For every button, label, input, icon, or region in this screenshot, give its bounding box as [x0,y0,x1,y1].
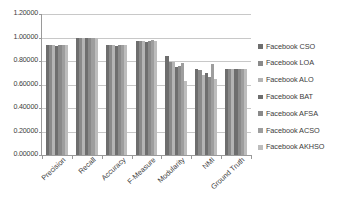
legend-item-label: Facebook AKHSO [266,143,325,151]
legend-swatch-icon [258,111,263,116]
y-axis-tick-label: 0.00000 [0,151,38,158]
legend-item-label: Facebook BAT [266,93,313,101]
bar-group [72,14,102,155]
bar [214,79,217,155]
bar-group [42,14,72,155]
y-axis-tick-label: 1.20000 [0,10,38,17]
bar [154,41,157,155]
legend-item[interactable]: Facebook BAT [258,92,313,101]
bar-chart: 0.000000.200000.400000.600000.800001.000… [0,0,350,211]
bar-group [102,14,132,155]
legend-item[interactable]: Facebook AKHSO [258,143,324,152]
legend-item-label: Facebook ACSO [266,127,320,135]
legend-swatch-icon [258,78,263,83]
legend-swatch-icon [258,95,263,100]
plot-area [41,14,251,156]
legend-item[interactable]: Facebook ACSO [258,126,320,135]
y-axis-tick-label: 0.20000 [0,128,38,135]
legend-swatch-icon [258,128,263,133]
y-axis-tick-label: 0.80000 [0,57,38,64]
legend-swatch-icon [258,44,263,49]
bar [184,81,187,155]
plot-wrap: 0.000000.200000.400000.600000.800001.000… [0,0,262,211]
bar-group [132,14,162,155]
legend-item[interactable]: Facebook ALO [258,76,314,85]
legend: Facebook CSOFacebook LOAFacebook ALOFace… [258,42,350,162]
legend-item-label: Facebook CSO [266,43,315,51]
bar-group [221,14,251,155]
y-axis-tick-label: 0.40000 [0,104,38,111]
legend-item[interactable]: Facebook CSO [258,42,315,51]
bar [244,69,247,155]
x-axis-tickmark [251,155,252,159]
legend-item[interactable]: Facebook LOA [258,59,314,68]
legend-swatch-icon [258,145,263,150]
legend-item-label: Facebook ALO [266,76,314,84]
legend-item-label: Facebook AFSA [266,110,318,118]
bar [65,45,68,155]
legend-swatch-icon [258,61,263,66]
bar-group [191,14,221,155]
x-axis-category-labels: PrecisionRecallAccuracyF-MeasureModulari… [41,156,250,211]
bar-groups [42,14,251,155]
legend-item[interactable]: Facebook AFSA [258,109,318,118]
bar [95,38,98,156]
bar [124,45,127,155]
y-axis-tick-label: 1.00000 [0,34,38,41]
legend-item-label: Facebook LOA [266,59,314,67]
bar-group [161,14,191,155]
y-axis-tick-labels: 0.000000.200000.400000.600000.800001.000… [0,10,38,156]
y-axis-tick-label: 0.60000 [0,81,38,88]
